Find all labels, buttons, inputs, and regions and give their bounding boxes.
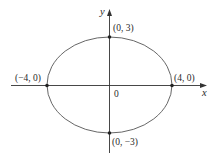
origin-label: 0 bbox=[114, 89, 119, 99]
y-axis-arrow-icon bbox=[107, 9, 112, 16]
point-top bbox=[108, 35, 112, 39]
ellipse-diagram: y x 0 (0, 3) (4, 0) (0, −3) (−4, 0) bbox=[0, 0, 216, 159]
point-bottom bbox=[108, 131, 112, 135]
point-right bbox=[170, 84, 174, 88]
point-bottom-label: (0, −3) bbox=[112, 137, 138, 148]
point-right-label: (4, 0) bbox=[174, 73, 195, 84]
y-axis-label: y bbox=[99, 6, 105, 17]
point-left bbox=[45, 84, 49, 88]
x-axis-label: x bbox=[201, 87, 207, 98]
point-top-label: (0, 3) bbox=[113, 23, 134, 34]
point-left-label: (−4, 0) bbox=[15, 73, 41, 84]
